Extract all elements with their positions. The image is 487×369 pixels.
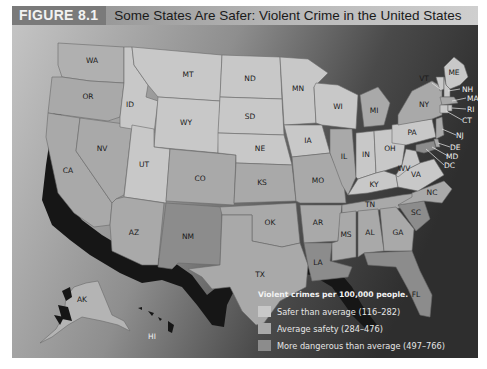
svg-text:DE: DE — [450, 143, 461, 152]
legend-item-dangerous: More dangerous than average (497–766) — [258, 337, 445, 354]
legend-item-average: Average safety (284–476) — [258, 320, 445, 337]
state-IA: IA — [284, 125, 330, 157]
svg-text:VA: VA — [411, 170, 422, 179]
svg-text:TN: TN — [364, 200, 375, 209]
figure-number: FIGURE 8.1 — [12, 6, 106, 25]
state-KS: KS — [234, 163, 296, 203]
svg-text:NJ: NJ — [456, 131, 464, 140]
svg-text:IA: IA — [304, 136, 312, 145]
svg-text:OK: OK — [265, 218, 277, 227]
svg-text:KS: KS — [257, 178, 267, 187]
svg-text:OR: OR — [82, 92, 93, 101]
svg-text:PA: PA — [407, 128, 417, 137]
figure-title: Some States Are Safer: Violent Crime in … — [106, 8, 461, 23]
svg-text:NM: NM — [182, 232, 194, 241]
svg-text:WY: WY — [180, 118, 192, 127]
map-legend: Violent crimes per 100,000 people. Safer… — [258, 290, 445, 354]
svg-text:ME: ME — [448, 68, 459, 77]
state-WY: WY — [154, 97, 220, 153]
state-ND: ND — [220, 55, 282, 99]
svg-text:ND: ND — [244, 74, 256, 83]
svg-text:NV: NV — [97, 144, 109, 153]
svg-text:VT: VT — [419, 74, 429, 83]
svg-text:OH: OH — [384, 144, 396, 153]
svg-text:UT: UT — [139, 160, 149, 169]
svg-text:NE: NE — [255, 144, 266, 153]
svg-text:MD: MD — [446, 152, 458, 161]
svg-text:MT: MT — [182, 70, 193, 79]
legend-item-safer: Safer than average (116–282) — [258, 303, 445, 320]
svg-text:IL: IL — [341, 152, 348, 161]
state-OR: OR — [48, 77, 124, 121]
svg-text:HI: HI — [148, 332, 156, 341]
svg-text:MO: MO — [312, 176, 324, 185]
svg-text:GA: GA — [393, 228, 405, 237]
svg-text:CO: CO — [194, 174, 205, 183]
svg-text:WI: WI — [333, 102, 343, 111]
svg-text:SD: SD — [245, 112, 256, 121]
svg-text:CT: CT — [462, 116, 472, 125]
legend-title: Violent crimes per 100,000 people. — [258, 290, 445, 299]
state-CO: CO — [166, 149, 236, 205]
svg-text:CA: CA — [63, 166, 74, 175]
svg-text:WV: WV — [398, 164, 411, 173]
svg-text:AZ: AZ — [129, 228, 139, 237]
svg-text:NH: NH — [462, 85, 473, 94]
legend-label: More dangerous than average (497–766) — [277, 341, 445, 351]
svg-text:MN: MN — [292, 84, 304, 93]
state-WA: WA — [58, 43, 124, 83]
svg-text:MA: MA — [467, 94, 478, 103]
svg-text:LA: LA — [313, 258, 323, 267]
svg-text:SC: SC — [411, 208, 421, 217]
svg-text:NY: NY — [419, 100, 430, 109]
legend-label: Safer than average (116–282) — [277, 307, 400, 317]
state-IN: IN — [356, 131, 376, 179]
svg-text:RI: RI — [467, 105, 474, 114]
svg-text:MI: MI — [370, 106, 379, 115]
svg-text:AL: AL — [365, 228, 375, 237]
swatch-dangerous — [258, 340, 271, 351]
swatch-safer — [258, 306, 271, 317]
svg-text:NC: NC — [427, 188, 438, 197]
state-SD: SD — [218, 97, 284, 135]
svg-text:ID: ID — [126, 100, 134, 109]
swatch-average — [258, 323, 271, 334]
svg-text:DC: DC — [444, 161, 455, 170]
svg-text:IN: IN — [362, 150, 370, 159]
legend-label: Average safety (284–476) — [277, 324, 383, 334]
svg-text:KY: KY — [369, 180, 379, 189]
figure-header: FIGURE 8.1 Some States Are Safer: Violen… — [12, 6, 478, 25]
svg-text:AK: AK — [77, 295, 88, 304]
svg-text:MS: MS — [340, 230, 351, 239]
svg-text:AR: AR — [313, 218, 323, 227]
state-RI — [448, 105, 452, 111]
state-AR: AR — [300, 205, 342, 243]
svg-text:TX: TX — [254, 270, 265, 279]
svg-text:WA: WA — [86, 56, 99, 65]
state-NM: NM — [158, 203, 222, 269]
